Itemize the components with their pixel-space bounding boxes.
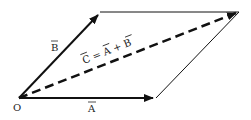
vector-c-resultant-arrow: [19, 13, 236, 98]
diagram-canvas: O A B C = A + B: [0, 0, 251, 120]
resultant-label-group: C = A + B: [80, 35, 136, 66]
vector-addition-diagram: O A B C = A + B: [0, 0, 251, 120]
vector-b-label: B: [51, 42, 58, 53]
resultant-label: C = A + B: [81, 37, 133, 66]
origin-label: O: [13, 102, 21, 113]
vector-a-label: A: [87, 103, 96, 114]
parallelogram-right-edge: [156, 12, 239, 98]
